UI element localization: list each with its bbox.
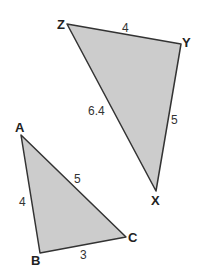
similar-triangles-diagram: Z Y X 4 5 6.4 A B C 4 3 5 (0, 0, 199, 276)
triangle-xyz (67, 24, 181, 191)
side-label-ac: 5 (74, 172, 81, 186)
vertex-label-c: C (128, 230, 138, 245)
triangle-abc (21, 135, 126, 253)
vertex-label-b: B (31, 253, 40, 268)
side-label-ab: 4 (19, 195, 26, 209)
vertex-label-z: Z (57, 17, 65, 32)
vertex-label-x: X (151, 193, 160, 208)
vertex-label-y: Y (182, 35, 191, 50)
side-label-bc: 3 (80, 248, 87, 262)
side-label-yx: 5 (171, 113, 178, 127)
vertex-label-a: A (15, 120, 25, 135)
side-label-zy: 4 (122, 21, 129, 35)
side-label-zx: 6.4 (88, 104, 105, 118)
